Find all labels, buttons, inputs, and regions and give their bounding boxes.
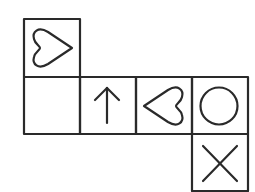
circle-icon	[201, 88, 238, 125]
net-cell-mid-3	[192, 77, 248, 134]
cell-border	[24, 77, 80, 134]
cube-net-diagram	[0, 0, 255, 192]
net-cell-bottom	[192, 134, 248, 191]
heart-icon	[34, 30, 72, 67]
net-cell-mid-2	[136, 77, 192, 134]
heart-icon	[144, 88, 182, 125]
net-cell-mid-1	[80, 77, 136, 134]
cross-icon	[203, 146, 237, 181]
net-cell-mid-0	[24, 77, 80, 134]
arrow-up-icon	[95, 88, 119, 123]
net-cell-top	[24, 19, 80, 77]
